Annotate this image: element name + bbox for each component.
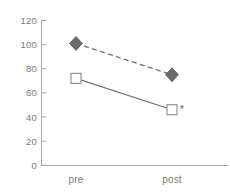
y-axis-tick-label-80: 80	[11, 64, 37, 74]
y-axis-tick-label-0: 0	[11, 161, 37, 171]
series-diamond-marker-pre	[70, 36, 83, 50]
series-square-group	[71, 73, 177, 114]
x-axis-tick-label-post: post	[148, 175, 196, 185]
series-square-marker-pre	[71, 73, 81, 83]
series-diamond-line	[76, 43, 172, 74]
axes	[42, 20, 229, 166]
y-axis-tick-label-20: 20	[11, 137, 37, 147]
significance-asterisk: *	[180, 103, 185, 115]
series-square-line	[76, 78, 172, 109]
series-diamond-marker-post	[166, 68, 179, 82]
x-axis-tick-label-pre: pre	[52, 175, 100, 185]
y-axis-tick-label-60: 60	[11, 88, 37, 98]
y-axis-tick-label-100: 100	[11, 40, 37, 50]
series-diamond-group	[70, 36, 179, 81]
y-axis-tick-label-40: 40	[11, 113, 37, 123]
y-tick-marks	[42, 21, 47, 166]
y-axis-tick-label-120: 120	[11, 16, 37, 26]
line-chart: * 120 100 80 60 40 20 0 pre post	[0, 0, 230, 195]
series-square-marker-post	[167, 105, 177, 115]
